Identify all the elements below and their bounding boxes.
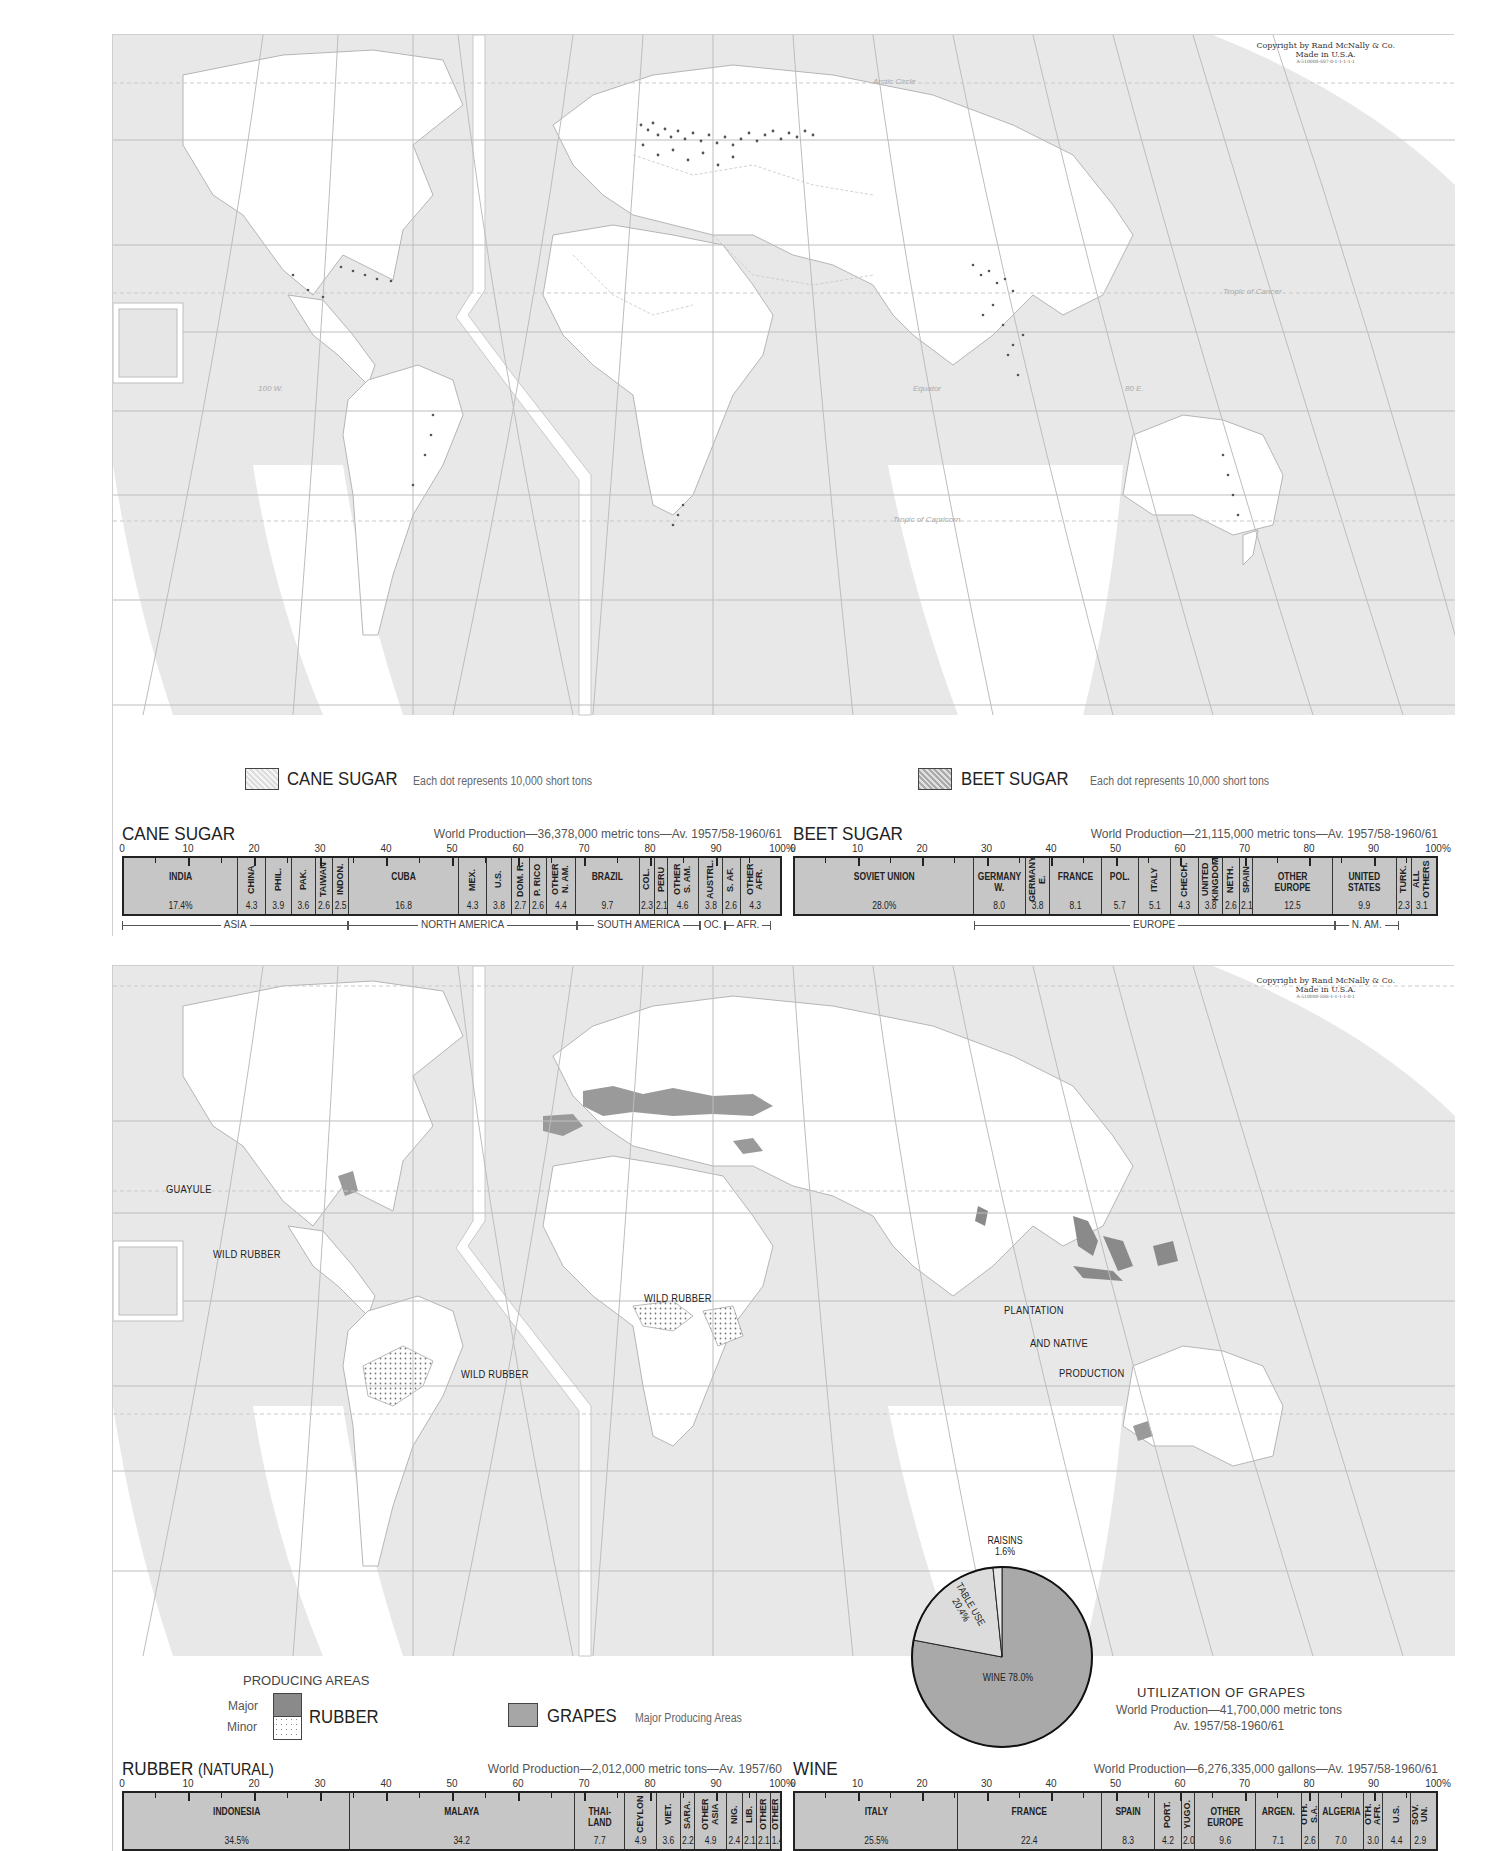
segment-label: FRANCE	[969, 1807, 1090, 1818]
producing-areas-title: PRODUCING AREAS	[243, 1673, 369, 1688]
copyright-line: Copyright by Rand McNally & Co.	[1256, 41, 1395, 50]
wild-rubber-label-central-america: WILD RUBBER	[213, 1248, 281, 1260]
bar-segment: OTHER AFR.4.3	[741, 858, 769, 914]
bar-segment: OTH. AFR.3.0	[1364, 1793, 1383, 1849]
region-label: SOUTH AMERICA	[594, 919, 683, 930]
axis-tick-label: 20	[916, 843, 927, 854]
major-label: Major	[228, 1699, 258, 1713]
segment-value: 16.8	[357, 900, 450, 911]
sugar-panel: Copyright by Rand McNally & Co. Made in …	[0, 0, 1509, 940]
axis-tick-label: 10	[182, 1778, 193, 1789]
segment-value: 5.7	[1105, 900, 1135, 911]
segment-label: TAIWAN	[316, 861, 332, 898]
segment-value: 4.3	[461, 900, 484, 911]
segment-label: POL.	[1105, 872, 1135, 883]
rubber-grapes-panel: Copyright by Rand McNally & Co. Made in …	[0, 960, 1509, 1851]
axis-tick-label: 40	[1045, 843, 1056, 854]
segment-value: 17.4%	[132, 900, 228, 911]
segment-label: INDIA	[132, 872, 228, 883]
axis-tick-label: 80	[1303, 1778, 1314, 1789]
bar-segment: LIB.2.1	[743, 1793, 757, 1849]
segment-value: 8.3	[1106, 1835, 1150, 1846]
axis-tick-label: 70	[1239, 1778, 1250, 1789]
segment-value: 2.4	[729, 1835, 742, 1846]
copyright-note: Copyright by Rand McNally & Co. Made in …	[1256, 976, 1395, 1000]
bar-segment: PORT.4.2	[1155, 1793, 1182, 1849]
bar-segment: UNITED STATES9.9	[1333, 858, 1396, 914]
segment-label: DOM. R.	[512, 861, 529, 898]
segment-value: 3.8	[1027, 900, 1047, 911]
segment-label: OTHER N. AM.	[547, 861, 575, 898]
bar-segment: FRANCE22.4	[958, 1793, 1102, 1849]
axis-tick-label: 80	[644, 843, 655, 854]
pie-label-wine: WINE 78.0%	[977, 1672, 1039, 1683]
bar-segment: MALAYA34.2	[350, 1793, 574, 1849]
segment-label: GERMANY E.	[1026, 861, 1049, 898]
sugar-world-map	[113, 35, 1455, 937]
segment-label: ITALY	[1139, 861, 1171, 898]
minor-label: Minor	[227, 1720, 257, 1734]
segment-label: CHINA	[238, 861, 265, 898]
segment-label: OTHER ASIA	[695, 1796, 726, 1833]
axis-tick-label: 50	[1110, 1778, 1121, 1789]
segment-label: SARA.	[681, 1796, 694, 1833]
wine-chart: WINE World Production—6,276,335,000 gall…	[793, 1758, 1438, 1851]
axis-tick-label: 60	[1174, 843, 1185, 854]
segment-value: 2.1	[758, 1835, 769, 1846]
pie-label-raisins: RAISINS 1.6%	[979, 1535, 1032, 1557]
cane-sugar-chart: CANE SUGAR World Production—36,378,000 m…	[122, 823, 782, 935]
segment-label: OTHER	[757, 1796, 770, 1833]
bar-segment: YUGO.2.0	[1182, 1793, 1195, 1849]
segment-value: 22.4	[969, 1835, 1090, 1846]
segment-value: 2.0	[1183, 1835, 1193, 1846]
segment-value: 3.9	[268, 900, 289, 911]
bar-segment: ITALY5.1	[1139, 858, 1172, 914]
bar-segment: POL.5.7	[1102, 858, 1139, 914]
axis-tick-label: 40	[1045, 1778, 1056, 1789]
segment-label: THAI-LAND	[578, 1807, 620, 1828]
segment-label: PAK.	[292, 861, 315, 898]
bar-segment: ALGERIA7.0	[1319, 1793, 1364, 1849]
region-bracket: AFR.	[725, 919, 771, 933]
axis-tick-label: 0	[119, 1778, 125, 1789]
bar-segment: GERMANY W.8.0	[974, 858, 1025, 914]
axis-tick-label: 20	[248, 843, 259, 854]
bar-segment: CUBA16.8	[349, 858, 459, 914]
axis-tick-label: 90	[710, 843, 721, 854]
segment-value: 28.0%	[808, 900, 960, 911]
segment-label: OTHER EUROPE	[1199, 1807, 1250, 1828]
stacked-bar: INDIA17.4%CHINA4.3PHIL.3.9PAK.3.6TAIWAN2…	[122, 856, 782, 916]
segment-value: 2.3	[641, 900, 653, 911]
axis-tick-label: 30	[314, 843, 325, 854]
axis-tick-label: 60	[512, 843, 523, 854]
segment-label: PORT.	[1155, 1796, 1181, 1833]
chart-subtitle: World Production—36,378,000 metric tons—…	[434, 827, 782, 841]
axis-tick-label: 70	[578, 843, 589, 854]
chart-title-main: RUBBER	[122, 1758, 193, 1779]
bar-segment: MEX.4.3	[459, 858, 487, 914]
chart-title: BEET SUGAR	[793, 823, 903, 845]
axis-tick-label: 0	[790, 843, 796, 854]
axis-tick-label: 70	[1239, 843, 1250, 854]
segment-value: 4.3	[240, 900, 263, 911]
segment-value: 7.7	[578, 1835, 620, 1846]
bar-segment: BRAZIL9.7	[576, 858, 640, 914]
bar-segment: FRANCE8.1	[1050, 858, 1102, 914]
segment-value: 2.6	[317, 900, 331, 911]
bar-segment: NIG.2.4	[727, 1793, 743, 1849]
bar-segment: COL.2.3	[640, 858, 655, 914]
beet-sugar-swatch	[918, 768, 952, 790]
axis-tick-label: 60	[1174, 1778, 1185, 1789]
rubber-legend-title: RUBBER	[309, 1706, 379, 1728]
grapes-swatch	[508, 1703, 538, 1727]
segment-value: 3.6	[659, 1835, 678, 1846]
chart-axis: 0102030405060708090100%	[122, 1778, 782, 1790]
bar-segment: OTHER EUROPE12.5	[1253, 858, 1333, 914]
region-bracket: EUROPE	[974, 919, 1335, 933]
bar-segment: AUSTRL.3.8	[699, 858, 724, 914]
segment-value: 7.0	[1322, 1835, 1359, 1846]
bar-segment: ALL OTHERS3.1	[1412, 858, 1432, 914]
chart-title-suffix: (NATURAL)	[198, 1761, 274, 1778]
segment-value: 2.7	[514, 900, 528, 911]
axis-tick-label: 10	[852, 1778, 863, 1789]
